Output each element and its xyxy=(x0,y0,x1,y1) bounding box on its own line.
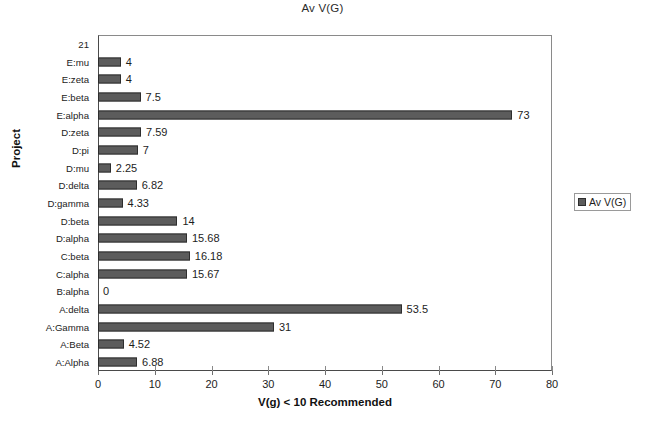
bar-value-label: 4.52 xyxy=(129,338,150,350)
bar-row: 16.18 xyxy=(98,247,552,265)
x-axis-tick-mark xyxy=(212,371,213,375)
bar-value-label: 31 xyxy=(279,321,291,333)
bar-row: 7.59 xyxy=(98,123,552,141)
bar-row xyxy=(98,35,552,53)
bar[interactable] xyxy=(98,216,177,225)
bar-row: 15.67 xyxy=(98,265,552,283)
y-axis-tick-label: E:beta xyxy=(61,91,89,102)
bar[interactable] xyxy=(98,269,187,278)
bar-value-label: 4 xyxy=(126,73,132,85)
bar[interactable] xyxy=(98,305,402,314)
y-axis-tick-label: E:mu xyxy=(67,56,89,67)
bar-value-label: 2.25 xyxy=(116,162,137,174)
bar[interactable] xyxy=(98,181,137,190)
bar-row: 14 xyxy=(98,212,552,230)
bar-row: 15.68 xyxy=(98,230,552,248)
y-axis-tick-label: E:alpha xyxy=(56,109,89,120)
chart-title: Av V(G) xyxy=(0,2,645,14)
x-axis-tick-mark xyxy=(98,371,99,375)
legend: Av V(G) xyxy=(574,193,631,211)
x-axis-tick-label: 50 xyxy=(376,378,388,390)
bar-row: 7.5 xyxy=(98,88,552,106)
x-axis-inner-tick-mark xyxy=(155,366,156,371)
bar-value-label: 6.88 xyxy=(142,356,163,368)
bar-value-label: 4.33 xyxy=(128,197,149,209)
bar[interactable] xyxy=(98,340,124,349)
bar-row: 6.82 xyxy=(98,176,552,194)
legend-label: Av V(G) xyxy=(589,196,626,208)
bar-value-label: 7.5 xyxy=(146,91,161,103)
y-axis-tick-label: D:beta xyxy=(61,215,89,226)
y-axis-tick-label: B:alpha xyxy=(56,286,89,297)
x-axis-tick-mark xyxy=(268,371,269,375)
bar[interactable] xyxy=(98,358,137,367)
x-axis-tick-label: 20 xyxy=(205,378,217,390)
x-axis-tick-label: 30 xyxy=(262,378,274,390)
bar-row: 73 xyxy=(98,106,552,124)
y-axis-tick-label: D:pi xyxy=(72,144,89,155)
x-axis-tick-mark xyxy=(325,371,326,375)
bar[interactable] xyxy=(98,57,121,66)
bar-value-label: 7.59 xyxy=(146,126,167,138)
x-axis-inner-tick-mark xyxy=(268,366,269,371)
bar[interactable] xyxy=(98,322,274,331)
bar-value-label: 16.18 xyxy=(195,250,223,262)
bar[interactable] xyxy=(98,163,111,172)
bar-value-label: 0 xyxy=(103,285,109,297)
x-axis-inner-tick-mark xyxy=(439,366,440,371)
bar-value-label: 53.5 xyxy=(407,303,428,315)
y-axis-tick-label: C:alpha xyxy=(56,268,89,279)
bar[interactable] xyxy=(98,92,141,101)
bar-row: 7 xyxy=(98,141,552,159)
x-axis-tick-mark xyxy=(495,371,496,375)
x-axis-tick-label: 0 xyxy=(95,378,101,390)
bar[interactable] xyxy=(98,145,138,154)
x-axis-tick-label: 40 xyxy=(319,378,331,390)
y-axis-tick-label: D:alpha xyxy=(56,233,89,244)
bar-row: 31 xyxy=(98,318,552,336)
y-axis-tick-label: D:gamma xyxy=(47,198,89,209)
bar[interactable] xyxy=(98,198,123,207)
x-axis-tick-label: 60 xyxy=(432,378,444,390)
x-axis-tick-label: 10 xyxy=(149,378,161,390)
y-axis-tick-label: D:delta xyxy=(59,180,89,191)
bar-series-container: 447.5737.5972.256.824.331415.6816.1815.6… xyxy=(98,35,552,371)
bar-value-label: 7 xyxy=(143,144,149,156)
y-axis-tick-label: D:zeta xyxy=(61,127,89,138)
bar-value-label: 4 xyxy=(126,56,132,68)
x-axis-inner-tick-mark xyxy=(325,366,326,371)
x-axis-tick-label: 80 xyxy=(546,378,558,390)
x-axis-inner-tick-mark xyxy=(212,366,213,371)
x-axis-tick-mark xyxy=(439,371,440,375)
bar-row: 2.25 xyxy=(98,159,552,177)
x-axis-inner-tick-mark xyxy=(495,366,496,371)
x-axis-tick-mark xyxy=(155,371,156,375)
x-axis-tick-mark xyxy=(382,371,383,375)
x-axis-tick-mark xyxy=(552,371,553,375)
x-axis-tick-label: 70 xyxy=(489,378,501,390)
y-axis-tick-label: 21 xyxy=(78,38,89,49)
x-axis-inner-tick-mark xyxy=(552,366,553,371)
bar-row: 4 xyxy=(98,70,552,88)
bar[interactable] xyxy=(98,234,187,243)
bar[interactable] xyxy=(98,110,512,119)
bar[interactable] xyxy=(98,252,190,261)
bar-row: 4.33 xyxy=(98,194,552,212)
x-axis-title: V(g) < 10 Recommended xyxy=(98,396,552,408)
y-axis-tick-label: A:Beta xyxy=(60,339,89,350)
legend-swatch-icon xyxy=(578,198,586,206)
y-axis-tick-label: E:zeta xyxy=(62,74,89,85)
bar-row: 4.52 xyxy=(98,336,552,354)
y-axis-tick-label: A:Gamma xyxy=(46,321,89,332)
bar-value-label: 15.68 xyxy=(192,232,220,244)
bar-value-label: 6.82 xyxy=(142,179,163,191)
bar[interactable] xyxy=(98,75,121,84)
y-axis-tick-label: A:Alpha xyxy=(55,357,89,368)
bar-row: 53.5 xyxy=(98,300,552,318)
bar-value-label: 73 xyxy=(517,109,529,121)
y-axis-tick-label: A:delta xyxy=(59,304,89,315)
y-axis-tick-label: C:beta xyxy=(61,251,89,262)
bar[interactable] xyxy=(98,128,141,137)
bar-row: 4 xyxy=(98,53,552,71)
y-axis-tick-label: D:mu xyxy=(66,162,89,173)
